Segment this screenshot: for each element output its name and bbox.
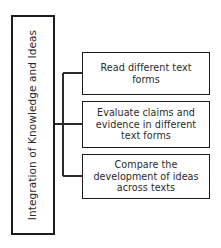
branch-label-evaluate: Evaluate claims and evidence in differen… <box>88 107 204 142</box>
branch-box-evaluate: Evaluate claims and evidence in differen… <box>82 101 210 148</box>
root-category-label: Integration of Knowledge and Ideas <box>27 30 39 220</box>
branch-box-read: Read different text forms <box>82 52 210 95</box>
root-category-box: Integration of Knowledge and Ideas <box>11 15 55 235</box>
diagram-canvas: Integration of Knowledge and Ideas Read … <box>0 0 221 248</box>
branch-label-compare: Compare the development of ideas across … <box>88 159 204 194</box>
branch-box-compare: Compare the development of ideas across … <box>82 154 210 199</box>
branch-label-read: Read different text forms <box>88 62 204 85</box>
